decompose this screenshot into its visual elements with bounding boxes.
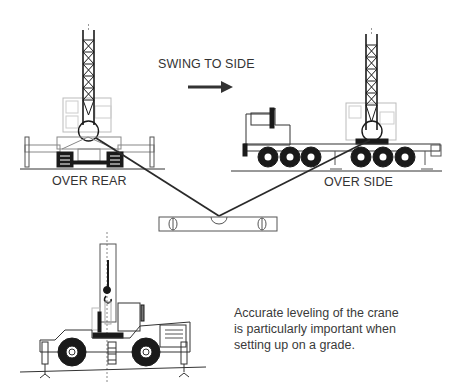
- caption-line-3: setting up on a grade.: [234, 337, 399, 353]
- spirit-level-icon: [159, 217, 277, 231]
- crane-over-rear: [20, 24, 165, 169]
- swing-arrow-icon: [188, 81, 233, 93]
- swing-to-side-label: SWING TO SIDE: [158, 57, 255, 71]
- caption: Accurate leveling of the crane is partic…: [234, 305, 399, 353]
- over-side-label: OVER SIDE: [324, 175, 393, 189]
- crane-over-side: [231, 28, 442, 171]
- over-rear-label: OVER REAR: [52, 174, 127, 188]
- crane-on-grade: [20, 232, 206, 384]
- caption-line-2: is particularly important when: [234, 321, 399, 337]
- caption-line-1: Accurate leveling of the crane: [234, 305, 399, 321]
